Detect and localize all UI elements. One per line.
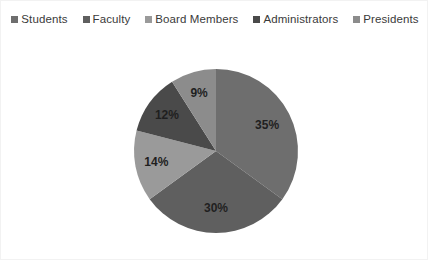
pie-data-label-board-members: 14% — [144, 155, 168, 169]
legend-item-presidents[interactable]: Presidents — [353, 13, 418, 26]
legend-item-faculty[interactable]: Faculty — [83, 13, 131, 26]
square-marker-icon — [83, 16, 90, 23]
pie-data-label-administrators: 12% — [155, 108, 179, 122]
legend-item-label: Board Members — [155, 13, 238, 26]
legend-item-board-members[interactable]: Board Members — [145, 13, 238, 26]
square-marker-icon — [353, 16, 360, 23]
square-marker-icon — [253, 16, 260, 23]
legend-item-label: Presidents — [363, 13, 418, 26]
square-marker-icon — [145, 16, 152, 23]
legend-item-students[interactable]: Students — [11, 13, 67, 26]
legend-item-label: Students — [21, 13, 67, 26]
pie-data-label-students: 35% — [255, 118, 279, 132]
legend-item-label: Administrators — [263, 13, 338, 26]
chart-container: StudentsFacultyBoard MembersAdministrato… — [0, 0, 428, 260]
pie-chart: 35%30%14%12%9% — [1, 29, 428, 260]
pie-data-label-presidents: 9% — [190, 86, 208, 100]
legend-item-administrators[interactable]: Administrators — [253, 13, 338, 26]
pie-data-label-faculty: 30% — [204, 201, 228, 215]
legend-item-label: Faculty — [93, 13, 131, 26]
chart-legend: StudentsFacultyBoard MembersAdministrato… — [1, 10, 428, 28]
pie-plot-area: 35%30%14%12%9% — [1, 29, 428, 260]
square-marker-icon — [11, 16, 18, 23]
